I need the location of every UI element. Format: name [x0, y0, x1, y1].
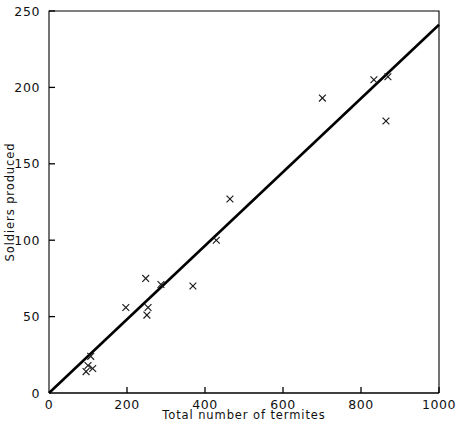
x-axis-ticks [127, 387, 439, 393]
fit-line [49, 25, 439, 393]
y-tick-label: 100 [14, 233, 40, 248]
plot-frame [49, 11, 439, 393]
plot-canvas: 050100150200250 02004006008001000 Total … [0, 0, 461, 430]
y-tick-label: 200 [14, 80, 40, 95]
y-axis-title: Soldiers produced [3, 143, 17, 262]
y-axis-ticks [49, 11, 55, 317]
x-tick-label: 200 [114, 397, 140, 412]
y-tick-labels: 050100150200250 [14, 4, 40, 401]
data-point-marker [213, 237, 220, 244]
regression-line [49, 25, 439, 393]
data-point-marker [319, 95, 326, 102]
data-point-marker [227, 196, 234, 203]
x-axis-title: Total number of termites [161, 408, 325, 422]
scatter-plot-figure: 050100150200250 02004006008001000 Total … [0, 0, 461, 430]
y-tick-label: 250 [14, 4, 40, 19]
x-tick-label: 1000 [422, 397, 456, 412]
data-points [83, 73, 392, 375]
x-tick-label: 0 [45, 397, 54, 412]
data-point-marker [370, 76, 377, 83]
data-point-marker [145, 304, 152, 311]
x-tick-label: 800 [348, 397, 374, 412]
data-point-marker [122, 304, 129, 311]
data-point-marker [143, 312, 150, 319]
y-tick-label: 150 [14, 156, 40, 171]
data-point-marker [383, 118, 390, 125]
data-point-marker [190, 283, 197, 290]
y-tick-label: 50 [23, 309, 40, 324]
data-point-marker [83, 368, 90, 375]
data-point-marker [142, 275, 149, 282]
y-tick-label: 0 [31, 386, 40, 401]
